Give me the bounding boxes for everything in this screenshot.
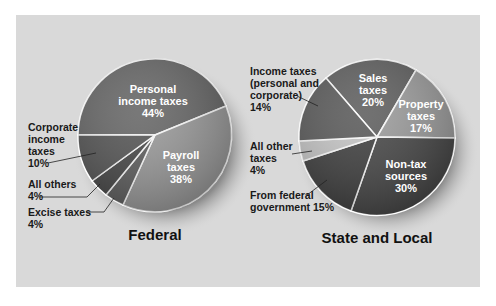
label-fedgov-2: government 15% — [250, 201, 335, 213]
label-income-3: corporate) — [250, 89, 302, 101]
label-sales-1: Sales — [359, 72, 388, 84]
label-fedgov-1: From federal — [250, 189, 314, 201]
label-nontax-1: Non-tax — [386, 158, 428, 170]
label-other-pct: 4% — [250, 164, 266, 176]
label-personal-2: income taxes — [118, 95, 188, 107]
label-corporate-pct: 10% — [28, 157, 50, 169]
label-personal-pct: 44% — [142, 107, 164, 119]
state-title: State and Local — [322, 229, 433, 246]
label-all-others: All others — [28, 178, 77, 190]
label-property-2: taxes — [407, 110, 435, 122]
label-corporate-2: income — [28, 133, 65, 145]
label-sales-2: taxes — [359, 84, 387, 96]
federal-shading — [78, 58, 232, 212]
pie-charts: Personal income taxes 44% Payroll taxes … — [0, 0, 496, 306]
label-income-2: (personal and — [250, 77, 319, 89]
label-nontax-pct: 30% — [395, 182, 417, 194]
label-income-pct: 14% — [250, 101, 272, 113]
label-other-1: All other — [250, 140, 293, 152]
label-all-others-pct: 4% — [28, 190, 44, 202]
state-local-pie: Sales taxes 20% Property taxes 17% Non-t… — [250, 59, 479, 246]
label-corporate-3: taxes — [28, 145, 55, 157]
label-other-2: taxes — [250, 152, 277, 164]
label-sales-pct: 20% — [362, 96, 384, 108]
label-property-pct: 17% — [410, 122, 432, 134]
label-payroll-1: Payroll — [163, 149, 200, 161]
label-payroll-2: taxes — [167, 161, 195, 173]
label-excise-pct: 4% — [28, 218, 44, 230]
federal-pie: Personal income taxes 44% Payroll taxes … — [28, 58, 257, 243]
label-personal-1: Personal — [130, 83, 176, 95]
label-payroll-pct: 38% — [170, 173, 192, 185]
label-property-1: Property — [398, 98, 444, 110]
label-nontax-2: sources — [385, 170, 427, 182]
federal-title: Federal — [128, 226, 181, 243]
label-income-1: Income taxes — [250, 65, 317, 77]
label-corporate-1: Corporate — [28, 121, 78, 133]
label-excise: Excise taxes — [28, 206, 91, 218]
